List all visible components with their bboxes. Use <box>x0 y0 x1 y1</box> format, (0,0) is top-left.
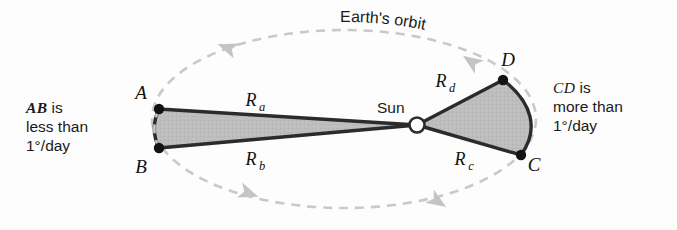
svg-text:d: d <box>449 81 456 95</box>
callout-left-line2: less than <box>26 117 88 136</box>
point-A-dot <box>154 104 164 114</box>
callout-fast-CD: CD is more than 1°/day <box>553 78 623 135</box>
callout-left-line3: 1°/day <box>26 136 88 155</box>
point-A-label: A <box>133 82 147 103</box>
radius-label-Rc: R c <box>454 149 475 173</box>
arrow-bottom-left <box>237 182 261 204</box>
sun-marker <box>410 118 425 133</box>
svg-text:R: R <box>245 90 257 110</box>
callout-left-term: AB <box>26 99 47 116</box>
svg-text:c: c <box>468 159 474 173</box>
svg-text:b: b <box>259 159 265 173</box>
point-C-label: C <box>528 154 541 175</box>
point-B-label: B <box>135 156 147 177</box>
arrow-bottom-right <box>425 189 450 213</box>
callout-right-line2: more than <box>553 97 623 116</box>
radius-label-Ra: R a <box>245 90 266 114</box>
point-D-dot <box>498 75 508 85</box>
callout-right-line3: 1°/day <box>553 116 623 135</box>
radius-label-Rd: R d <box>435 71 456 95</box>
callout-right-term-suffix: is <box>575 79 591 96</box>
sun-label: Sun <box>377 99 405 116</box>
callout-left-line1: AB is <box>26 98 88 117</box>
callout-right-line1: CD is <box>553 78 623 97</box>
point-B-dot <box>154 143 164 153</box>
callout-slow-AB: AB is less than 1°/day <box>26 98 88 155</box>
point-C-dot <box>516 150 526 160</box>
orbit-diagram: A B C D R a R b R c R d Sun Earth's orbi… <box>0 0 677 230</box>
fast-sector-CD <box>417 80 531 155</box>
point-D-label: D <box>500 49 515 70</box>
callout-left-term-suffix: is <box>47 99 63 116</box>
arrow-top-left <box>215 37 239 59</box>
radius-label-Rb: R b <box>245 149 266 173</box>
arrow-top-right <box>458 49 484 74</box>
svg-text:R: R <box>435 71 447 91</box>
svg-text:R: R <box>454 149 466 169</box>
svg-text:R: R <box>245 149 257 169</box>
svg-text:a: a <box>259 100 265 114</box>
callout-right-term: CD <box>553 79 575 96</box>
